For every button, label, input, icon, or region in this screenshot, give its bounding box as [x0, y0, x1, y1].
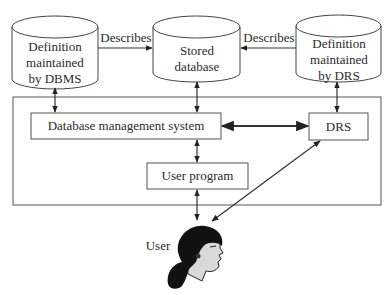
cylinder-line: Definition: [297, 36, 381, 52]
cylinder-label-drs-definition: Definition maintained by DRS: [297, 36, 381, 84]
cylinder-line: Definition: [13, 39, 97, 55]
cylinder-line: by DRS: [297, 68, 381, 84]
cylinder-label-dbms-definition: Definition maintained by DBMS: [13, 39, 97, 87]
cylinder-line: database: [155, 59, 239, 75]
cylinder-line: maintained: [13, 55, 97, 71]
cylinder-label-stored-database: Stored database: [155, 43, 239, 75]
user-program-label: User program: [147, 163, 248, 189]
cylinder-line: maintained: [297, 52, 381, 68]
dbms-label: Database management system: [31, 113, 221, 139]
describes-label-left: Describes: [100, 30, 152, 46]
cylinder-line: Stored: [155, 43, 239, 59]
describes-label-right: Describes: [243, 30, 295, 46]
drs-label: DRS: [309, 113, 368, 140]
user-label: User: [143, 238, 173, 254]
cylinder-line: by DBMS: [13, 71, 97, 87]
user-head-icon: [168, 226, 223, 289]
